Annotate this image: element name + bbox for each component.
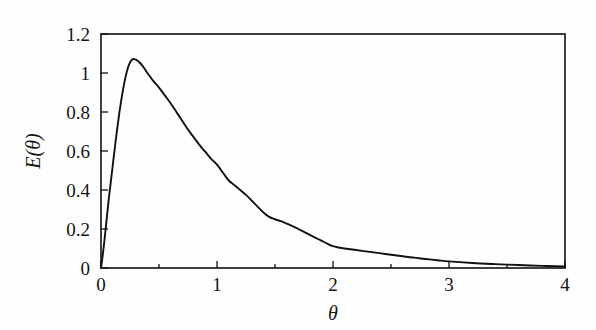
y-tick-label: 1.2 <box>66 24 90 45</box>
chart-canvas: 01234 00.20.40.60.811.2 θ E(θ) <box>0 0 596 330</box>
data-series-line <box>101 59 565 268</box>
y-tick-label: 0.4 <box>66 180 90 201</box>
x-axis-title: θ <box>328 302 338 324</box>
figure-root: 01234 00.20.40.60.811.2 θ E(θ) <box>0 0 596 330</box>
x-tick-label: 0 <box>96 274 106 295</box>
x-axis-tick-labels: 01234 <box>96 274 570 295</box>
x-tick-label: 3 <box>444 274 454 295</box>
plot-frame <box>101 34 565 268</box>
x-tick-label: 2 <box>328 274 338 295</box>
x-tick-label: 1 <box>212 274 222 295</box>
y-tick-label: 0.2 <box>66 219 90 240</box>
y-axis-title: E(θ) <box>22 133 45 170</box>
y-tick-label: 0.6 <box>66 141 90 162</box>
x-tick-label: 4 <box>560 274 570 295</box>
y-tick-label: 0 <box>81 258 91 279</box>
y-axis-tick-labels: 00.20.40.60.811.2 <box>66 24 90 279</box>
y-tick-label: 1 <box>81 63 91 84</box>
y-tick-label: 0.8 <box>66 102 90 123</box>
